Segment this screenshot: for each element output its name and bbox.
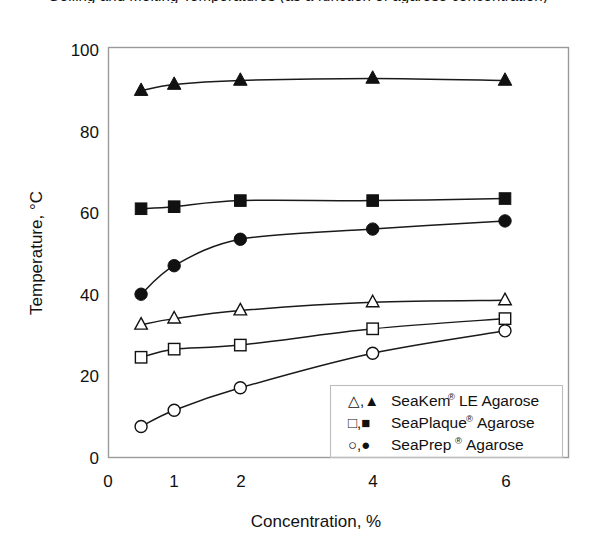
- data-point-2-2: [234, 233, 246, 245]
- legend-label-seaprep-name: SeaPrep: [391, 436, 451, 453]
- legend-label-seaplaque-name: SeaPlaque: [391, 414, 467, 431]
- legend-label-seaprep-suffix: Agarose: [466, 436, 524, 453]
- y-tick-60: 60: [80, 204, 99, 223]
- series-layer: [134, 71, 511, 433]
- data-point-0-3: [366, 71, 380, 84]
- series-4: [135, 313, 510, 363]
- legend-label-seakem-suffix: LE Agarose: [459, 392, 539, 409]
- data-point-1-0: [135, 203, 147, 215]
- data-point-4-0: [135, 352, 146, 363]
- legend-symbol-circles: ○,●: [348, 436, 370, 453]
- legend-symbol-squares: □,■: [348, 414, 370, 431]
- y-tick-0: 0: [90, 449, 99, 468]
- data-point-5-0: [135, 420, 147, 432]
- x-tick-2: 2: [236, 472, 245, 491]
- data-point-5-1: [168, 404, 180, 416]
- legend-entry-seaprep[interactable]: ○,● SeaPrep ® Agarose: [348, 435, 524, 453]
- legend-reg-mark-seaplaque: ®: [466, 413, 473, 424]
- legend-symbol-triangles: △,▲: [348, 392, 379, 409]
- y-tick-80: 80: [80, 123, 99, 142]
- legend-entry-seakem[interactable]: △,▲ SeaKem ® LE Agarose: [348, 391, 539, 409]
- data-point-4-3: [367, 323, 378, 334]
- data-point-0-2: [234, 73, 248, 86]
- data-point-5-2: [234, 382, 246, 394]
- data-point-5-4: [499, 325, 511, 337]
- data-point-1-2: [235, 195, 247, 207]
- figure-title-clipped: Gelling and Melting Temperatures (as a f…: [0, 0, 596, 3]
- data-point-3-3: [366, 295, 379, 307]
- y-tick-20: 20: [80, 367, 99, 386]
- data-point-3-4: [499, 293, 512, 305]
- data-point-2-1: [168, 260, 180, 272]
- data-point-1-3: [367, 195, 379, 207]
- legend-reg-mark-seakem: ®: [448, 391, 455, 402]
- x-tick-0: 0: [103, 472, 112, 491]
- y-tick-40: 40: [80, 286, 99, 305]
- legend-label-seaplaque-suffix: Agarose: [477, 414, 535, 431]
- x-axis-label: Concentration, %: [251, 512, 381, 531]
- series-line-1: [141, 199, 505, 209]
- data-point-5-3: [367, 347, 379, 359]
- series-line-5: [141, 331, 505, 427]
- x-tick-4: 4: [368, 472, 377, 491]
- x-tick-1: 1: [169, 472, 178, 491]
- data-point-2-0: [135, 288, 147, 300]
- series-2: [135, 215, 511, 301]
- data-point-0-1: [167, 77, 181, 90]
- data-point-1-1: [168, 201, 180, 213]
- series-line-4: [141, 319, 505, 358]
- series-line-0: [141, 78, 505, 90]
- data-point-3-2: [234, 303, 247, 315]
- data-point-4-1: [168, 343, 179, 354]
- series-1: [135, 193, 511, 215]
- data-point-4-4: [499, 313, 510, 324]
- y-tick-100: 100: [71, 41, 99, 60]
- legend-reg-mark-seaprep: ®: [455, 435, 462, 446]
- series-0: [134, 71, 511, 96]
- data-point-1-4: [499, 193, 511, 205]
- chart-legend: △,▲ SeaKem ® LE Agarose □,■ SeaPlaque ® …: [331, 386, 563, 458]
- x-axis-ticks: 0 1 2 4 6: [103, 472, 510, 491]
- y-axis-label: Temperature, °C: [27, 191, 46, 315]
- chart-svg: 100 80 60 40 20 0 Temperature, °C 0 1 2 …: [0, 0, 596, 558]
- series-line-2: [141, 221, 505, 294]
- series-3: [135, 293, 511, 329]
- x-tick-6: 6: [501, 472, 510, 491]
- legend-label-seakem-name: SeaKem: [391, 392, 450, 409]
- series-line-3: [141, 300, 505, 324]
- data-point-4-2: [235, 339, 246, 350]
- legend-entry-seaplaque[interactable]: □,■ SeaPlaque ® Agarose: [348, 413, 535, 431]
- chart-figure: Gelling and Melting Temperatures (as a f…: [0, 0, 596, 558]
- data-point-0-4: [498, 73, 512, 86]
- data-point-2-3: [366, 223, 378, 235]
- y-axis-ticks: 100 80 60 40 20 0: [71, 41, 99, 468]
- data-point-2-4: [499, 215, 511, 227]
